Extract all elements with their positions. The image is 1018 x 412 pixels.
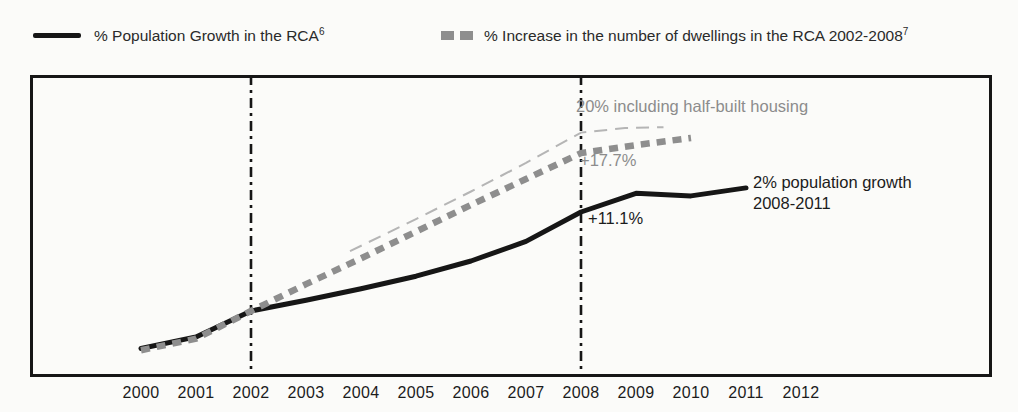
x-tick-2004: 2004: [331, 384, 391, 402]
x-tick-2012: 2012: [771, 384, 831, 402]
x-tick-2010: 2010: [661, 384, 721, 402]
x-tick-2001: 2001: [166, 384, 226, 402]
x-tick-2011: 2011: [716, 384, 776, 402]
x-tick-2006: 2006: [441, 384, 501, 402]
x-tick-2009: 2009: [606, 384, 666, 402]
x-tick-2000: 2000: [111, 384, 171, 402]
x-axis-labels: 2000200120022003200420052006200720082009…: [0, 0, 1018, 412]
x-tick-2002: 2002: [221, 384, 281, 402]
x-tick-2005: 2005: [386, 384, 446, 402]
x-tick-2007: 2007: [496, 384, 556, 402]
x-tick-2003: 2003: [276, 384, 336, 402]
x-tick-2008: 2008: [551, 384, 611, 402]
